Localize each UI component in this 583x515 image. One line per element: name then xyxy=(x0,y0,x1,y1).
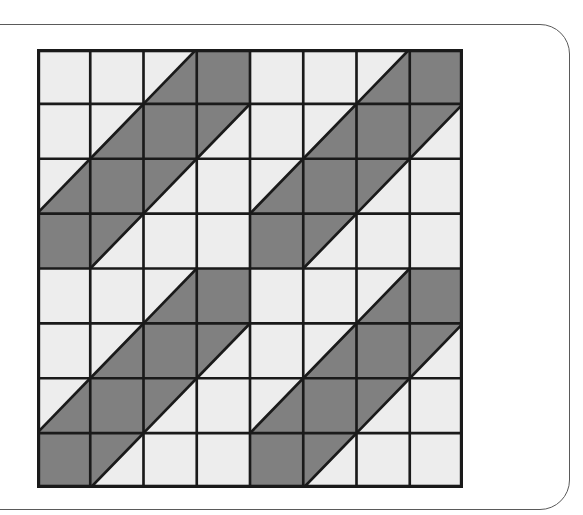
cell-base-r7-c4 xyxy=(197,378,250,433)
cell-shaded-full-r4-c1 xyxy=(37,214,90,269)
cell-base-r1-c2 xyxy=(90,49,143,104)
cell-base-r1-c1 xyxy=(37,49,90,104)
cell-shaded-full-r6-c3 xyxy=(144,323,197,378)
cell-shaded-full-r5-c8 xyxy=(410,269,463,324)
cell-base-r5-c2 xyxy=(90,269,143,324)
cell-base-r8-c7 xyxy=(357,433,410,488)
cell-base-r2-c1 xyxy=(37,104,90,159)
cell-base-r6-c1 xyxy=(37,323,90,378)
cell-base-r6-c5 xyxy=(250,323,303,378)
cell-base-r5-c6 xyxy=(303,269,356,324)
cell-base-r7-c8 xyxy=(410,378,463,433)
cell-base-r4-c3 xyxy=(144,214,197,269)
cell-shaded-full-r7-c6 xyxy=(303,378,356,433)
cell-shaded-full-r2-c7 xyxy=(357,104,410,159)
cell-shaded-full-r7-c2 xyxy=(90,378,143,433)
cell-base-r1-c6 xyxy=(303,49,356,104)
cell-base-r4-c7 xyxy=(357,214,410,269)
cell-base-r8-c3 xyxy=(144,433,197,488)
cell-shaded-full-r1-c8 xyxy=(410,49,463,104)
pattern-grid-svg xyxy=(37,49,463,488)
cell-shaded-full-r6-c7 xyxy=(357,323,410,378)
cell-base-r1-c5 xyxy=(250,49,303,104)
cell-shaded-full-r3-c2 xyxy=(90,159,143,214)
cell-base-r4-c4 xyxy=(197,214,250,269)
cell-base-r5-c5 xyxy=(250,269,303,324)
cell-shaded-full-r2-c3 xyxy=(144,104,197,159)
cell-base-r2-c5 xyxy=(250,104,303,159)
cell-base-r3-c8 xyxy=(410,159,463,214)
cell-shaded-full-r3-c6 xyxy=(303,159,356,214)
pattern-figure xyxy=(37,49,463,488)
cell-base-r8-c8 xyxy=(410,433,463,488)
cell-shaded-full-r1-c4 xyxy=(197,49,250,104)
cell-shaded-full-r5-c4 xyxy=(197,269,250,324)
cell-base-r3-c4 xyxy=(197,159,250,214)
cell-shaded-full-r4-c5 xyxy=(250,214,303,269)
page-root xyxy=(0,0,583,515)
cell-base-r8-c4 xyxy=(197,433,250,488)
cell-base-r5-c1 xyxy=(37,269,90,324)
cell-base-r4-c8 xyxy=(410,214,463,269)
cell-shaded-full-r8-c1 xyxy=(37,433,90,488)
cell-shaded-full-r8-c5 xyxy=(250,433,303,488)
